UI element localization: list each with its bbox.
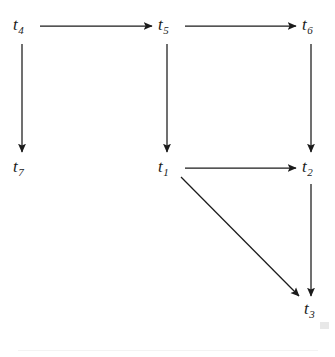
- node-t1: t1: [158, 158, 168, 175]
- node-t4-subscript: 4: [18, 24, 24, 36]
- node-t1-subscript: 1: [163, 166, 169, 178]
- node-t7-subscript: 7: [18, 166, 24, 178]
- node-t5: t5: [158, 16, 168, 33]
- edge-t1-to-t3: [181, 177, 299, 296]
- node-t6-subscript: 6: [307, 24, 313, 36]
- node-t6: t6: [302, 16, 312, 33]
- node-t2: t2: [302, 158, 312, 175]
- node-t2-subscript: 2: [307, 166, 313, 178]
- node-t3: t3: [304, 300, 314, 317]
- node-t4: t4: [13, 16, 23, 33]
- node-t7: t7: [13, 158, 23, 175]
- graph-edges-layer: [0, 0, 335, 357]
- node-t3-subscript: 3: [309, 308, 315, 320]
- figure-canvas: t4 t5 t6 t7 t1 t2 t3: [0, 0, 335, 357]
- node-t5-subscript: 5: [163, 24, 169, 36]
